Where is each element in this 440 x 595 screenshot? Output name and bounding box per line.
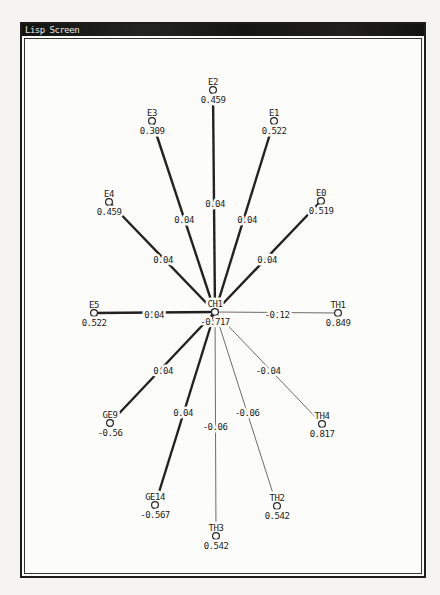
edge-weight-CH1-TH2: -0.06: [235, 408, 260, 418]
node-E0[interactable]: [318, 198, 325, 205]
node-E5[interactable]: [91, 310, 98, 317]
node-label-E3: E3: [147, 108, 157, 118]
node-E3[interactable]: [149, 118, 156, 125]
node-value-E1: 0.522: [262, 126, 287, 136]
node-label-E2: E2: [208, 77, 218, 87]
node-TH4[interactable]: [319, 421, 326, 428]
edge-weight-CH1-E4: 0.04: [153, 255, 173, 265]
node-group-TH2: TH20.542: [265, 493, 290, 521]
edge-weight-CH1-E2: 0.04: [205, 199, 225, 209]
node-value-E5: 0.522: [82, 318, 107, 328]
node-label-TH2: TH2: [270, 493, 285, 503]
node-label-GE14: GE14: [145, 492, 165, 502]
node-label-CH1: CH1: [208, 299, 223, 309]
node-group-E4: E40.459: [97, 189, 122, 217]
node-E2[interactable]: [210, 87, 217, 94]
node-value-GE9: -0.56: [98, 428, 123, 438]
node-group-E2: E20.459: [201, 77, 226, 105]
node-label-E4: E4: [104, 189, 114, 199]
node-label-E5: E5: [89, 300, 99, 310]
edge-weight-CH1-TH1: -0.12: [265, 310, 290, 320]
node-value-TH4: 0.817: [310, 429, 335, 439]
edge-weight-CH1-GE14: 0.04: [173, 408, 193, 418]
node-label-TH4: TH4: [315, 411, 330, 421]
edge-weight-CH1-E3: 0.04: [174, 215, 194, 225]
node-value-E4: 0.459: [97, 207, 122, 217]
node-value-GE14: -0.567: [140, 510, 170, 520]
node-CH1[interactable]: [212, 309, 219, 316]
node-value-E0: 0.519: [309, 206, 334, 216]
node-group-TH3: TH30.542: [204, 523, 229, 551]
node-value-TH3: 0.542: [204, 541, 229, 551]
edge-weight-CH1-TH3: -0.06: [203, 422, 228, 432]
node-value-E3: 0.309: [140, 126, 165, 136]
node-E4[interactable]: [106, 199, 113, 206]
node-group-E3: E30.309: [140, 108, 165, 136]
edge-weight-CH1-E5: 0.04: [144, 310, 164, 320]
edge-weight-CH1-TH4: -0.04: [256, 366, 281, 376]
node-E1[interactable]: [271, 118, 278, 125]
node-group-TH1: TH10.849: [326, 300, 351, 328]
node-GE9[interactable]: [107, 420, 114, 427]
node-value-TH1: 0.849: [326, 318, 351, 328]
node-label-GE9: GE9: [103, 410, 118, 420]
node-group-GE14: GE14-0.567: [140, 492, 170, 520]
edge-weight-CH1-GE9: 0.04: [153, 366, 173, 376]
node-group-E1: E10.522: [262, 108, 287, 136]
edge-weight-CH1-E1: 0.04: [237, 215, 257, 225]
node-group-E0: E00.519: [309, 188, 334, 216]
node-label-TH1: TH1: [331, 300, 346, 310]
node-TH3[interactable]: [213, 533, 220, 540]
network-graph-canvas: 0.040.040.040.040.040.04-0.120.04-0.040.…: [0, 0, 440, 595]
node-TH1[interactable]: [335, 310, 342, 317]
scanned-screen: Lisp Screen 0.040.040.040.040.040.04-0.1…: [0, 0, 440, 595]
node-value-TH2: 0.542: [265, 511, 290, 521]
edge-weight-CH1-E0: 0.04: [257, 255, 277, 265]
node-GE14[interactable]: [152, 502, 159, 509]
node-label-E1: E1: [269, 108, 279, 118]
node-label-TH3: TH3: [209, 523, 224, 533]
node-label-E0: E0: [316, 188, 326, 198]
node-value-CH1: -0.717: [200, 317, 230, 327]
node-value-E2: 0.459: [201, 95, 226, 105]
node-TH2[interactable]: [274, 503, 281, 510]
